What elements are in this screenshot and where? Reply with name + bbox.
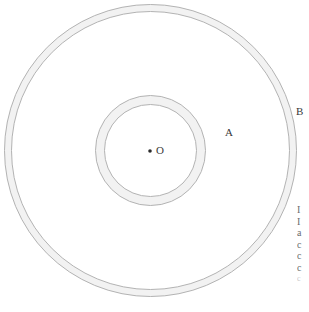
concentric-circles-diagram (0, 0, 309, 312)
margin-text-line: a (297, 227, 309, 239)
margin-text-line: c (297, 273, 309, 285)
margin-text-line: I (297, 204, 309, 216)
center-label-o: O (156, 145, 164, 156)
margin-text-line: c (297, 250, 309, 262)
inner-circle-label-a: A (225, 127, 233, 138)
center-point-O (148, 149, 152, 153)
margin-text-line: c (297, 262, 309, 274)
outer-circle-label-b: B (296, 106, 303, 117)
margin-text-line: c (297, 239, 309, 251)
margin-text-line: I (297, 216, 309, 228)
margin-text-block: I I a c c c c (297, 204, 309, 285)
